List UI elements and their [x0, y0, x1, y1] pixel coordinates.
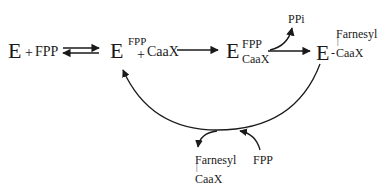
- fpp-superscript: FPP: [128, 36, 146, 47]
- product-release-arrow-icon: [198, 131, 217, 147]
- bond-dash: -: [331, 47, 335, 59]
- bond-line: |: [196, 164, 198, 172]
- ppi-label: PPi: [288, 13, 305, 25]
- fpp-superscript: FPP: [242, 38, 262, 50]
- enzyme-free: E: [8, 40, 21, 62]
- caax-subscript: CaaX: [242, 53, 269, 65]
- caax-label: CaaX: [195, 173, 222, 185]
- cycle-arc-icon: [123, 64, 320, 130]
- reaction-arrows: [0, 0, 381, 188]
- farnesyl-label: Farnesyl: [195, 154, 236, 166]
- enzyme-fpp-complex: E: [110, 40, 123, 62]
- fpp-label: FPP: [35, 45, 58, 59]
- bond-line: |: [337, 38, 339, 46]
- caax-label: CaaX: [336, 47, 363, 59]
- caax-label: CaaX: [147, 45, 179, 59]
- ternary-complex: E: [226, 40, 239, 62]
- farnesyl-label: Farnesyl: [336, 28, 377, 40]
- product-complex: E: [316, 42, 329, 64]
- fpp-input-arrow-icon: [240, 131, 260, 150]
- plus-sign: +: [25, 46, 33, 60]
- equilibrium-arrow-icon: [63, 48, 99, 53]
- fpp-input-label: FPP: [253, 154, 273, 166]
- plus-sign: +: [137, 48, 145, 62]
- ppi-release-arrow-icon: [270, 28, 292, 50]
